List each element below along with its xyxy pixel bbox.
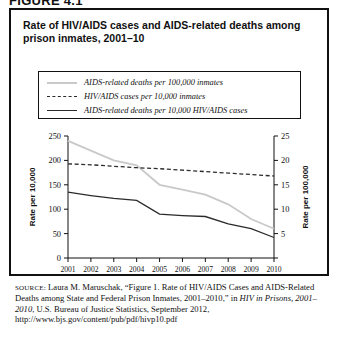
figure-container: FIGURE 4.1 Rate of HIV/AIDS cases and AI… [0, 0, 338, 339]
y-axis-tick-label: 0 [57, 254, 61, 263]
x-axis-tick-label: 2005 [152, 265, 167, 274]
x-axis-tick-label: 2003 [106, 265, 121, 274]
chart-plot-area: 0501001502002505101520252001200220032004… [23, 128, 319, 284]
source-citation: SOURCE: Laura M. Maruschak, “Figure 1. R… [15, 282, 328, 325]
y2-axis-tick-label: 25 [281, 132, 289, 141]
legend-item-cases-per-10000: HIV/AIDS cases per 10,000 inmates [47, 90, 205, 103]
y2-axis-tick-label: 15 [281, 181, 289, 190]
x-axis-tick-label: 2006 [175, 265, 190, 274]
x-axis-tick-label: 2002 [83, 265, 98, 274]
x-axis-tick-label: 2007 [198, 265, 213, 274]
legend-item-deaths-per-10000-cases: AIDS-related deaths per 10,000 HIV/AIDS … [47, 104, 247, 117]
chart-series-line-0 [68, 141, 274, 229]
y2-axis-title: Rate per 100,000 [301, 165, 310, 229]
x-axis-tick-label: 2004 [129, 265, 144, 274]
y2-axis-tick-label: 5 [281, 230, 285, 239]
source-text-2: , U.S. Bureau of Justice Statistics, Sep… [15, 304, 209, 324]
x-axis-tick-label: 2008 [221, 265, 236, 274]
y-axis-tick-label: 150 [48, 181, 61, 190]
y-axis-title: Rate per 10,000 [28, 167, 37, 226]
x-axis-tick-label: 2001 [60, 265, 75, 274]
y-axis-tick-label: 200 [48, 156, 61, 165]
legend-swatch-dashed-icon [47, 96, 77, 97]
line-chart-svg: 0501001502002505101520252001200220032004… [23, 128, 319, 284]
y-axis-tick-label: 100 [48, 205, 61, 214]
source-label: SOURCE: [15, 284, 46, 292]
legend-label: AIDS-related deaths per 100,000 inmates [84, 78, 223, 87]
y2-axis-tick-label: 20 [281, 156, 289, 165]
y-axis-tick-label: 250 [48, 132, 61, 141]
figure-box: Rate of HIV/AIDS cases and AIDS-related … [9, 8, 329, 276]
y-axis-tick-label: 50 [53, 230, 61, 239]
legend-label: AIDS-related deaths per 10,000 HIV/AIDS … [84, 106, 247, 115]
x-axis-tick-label: 2010 [266, 265, 281, 274]
figure-title: Rate of HIV/AIDS cases and AIDS-related … [23, 19, 313, 45]
legend-swatch-solid-light-icon [47, 82, 77, 84]
legend-item-deaths-per-100000: AIDS-related deaths per 100,000 inmates [47, 76, 223, 89]
legend-swatch-solid-dark-icon [47, 110, 77, 112]
x-axis-tick-label: 2009 [244, 265, 259, 274]
chart-legend: AIDS-related deaths per 100,000 inmates … [38, 71, 301, 119]
chart-series-line-1 [68, 164, 274, 176]
y2-axis-tick-label: 10 [281, 205, 289, 214]
figure-number: FIGURE 4.1 [9, 0, 83, 8]
legend-label: HIV/AIDS cases per 10,000 inmates [84, 92, 205, 101]
